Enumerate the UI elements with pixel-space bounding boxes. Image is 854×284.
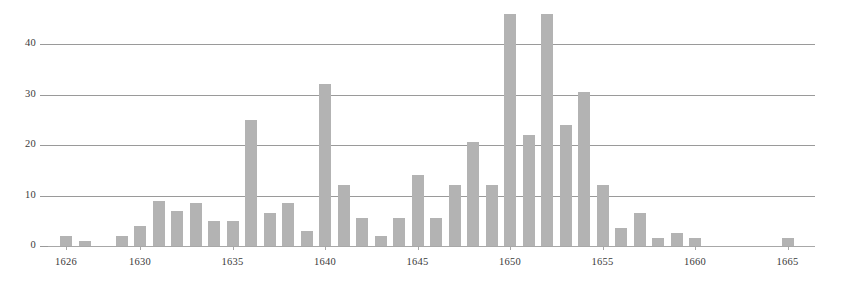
x-tick-mark-1665 [788, 247, 789, 250]
bar [171, 211, 183, 246]
bar [523, 135, 535, 246]
x-tick-mark-1626 [66, 247, 67, 250]
gridline-30 [48, 95, 815, 96]
y-axis-tick-label: 30 [2, 88, 36, 99]
x-axis-tick-label: 1635 [211, 256, 255, 267]
bar [393, 218, 405, 246]
bar [504, 14, 516, 246]
bar [541, 14, 553, 246]
y-tick-mark-20 [40, 145, 48, 146]
bar [671, 233, 683, 246]
x-axis-baseline [48, 246, 815, 247]
bar [412, 175, 424, 246]
bar [597, 185, 609, 246]
bar [578, 92, 590, 246]
x-axis-tick-label: 1640 [303, 256, 347, 267]
y-axis-tick-label: 20 [2, 138, 36, 149]
x-axis-tick-label: 1630 [118, 256, 162, 267]
bar [208, 221, 220, 246]
y-tick-mark-10 [40, 196, 48, 197]
x-tick-mark-1635 [233, 247, 234, 250]
x-axis-tick-label: 1626 [44, 256, 88, 267]
bar [375, 236, 387, 246]
bar [782, 238, 794, 246]
x-tick-mark-1640 [325, 247, 326, 250]
bar [615, 228, 627, 246]
y-tick-mark-30 [40, 95, 48, 96]
bar [319, 84, 331, 246]
x-axis-tick-label: 1655 [581, 256, 625, 267]
x-axis-tick-label: 1645 [396, 256, 440, 267]
x-tick-mark-1645 [418, 247, 419, 250]
bar [227, 221, 239, 246]
bar-chart-plot-area: 0102030401626163016351640164516501655166… [0, 0, 854, 284]
x-axis-tick-label: 1665 [766, 256, 810, 267]
gridline-10 [48, 196, 815, 197]
bar [689, 238, 701, 246]
bar [430, 218, 442, 246]
x-axis-tick-label: 1660 [673, 256, 717, 267]
bar [467, 142, 479, 246]
bar [60, 236, 72, 246]
bar [486, 185, 498, 246]
bar [338, 185, 350, 246]
chart-page: 0102030401626163016351640164516501655166… [0, 0, 854, 284]
bar [116, 236, 128, 246]
bar [245, 120, 257, 246]
bar [282, 203, 294, 246]
bar [79, 241, 91, 246]
y-tick-mark-40 [40, 44, 48, 45]
y-axis-tick-label: 0 [2, 239, 36, 250]
y-axis-tick-label: 10 [2, 189, 36, 200]
x-tick-mark-1650 [510, 247, 511, 250]
bar [634, 213, 646, 246]
x-tick-mark-1660 [695, 247, 696, 250]
bar [264, 213, 276, 246]
bar [560, 125, 572, 246]
bar [190, 203, 202, 246]
bar [134, 226, 146, 246]
x-tick-mark-1630 [140, 247, 141, 250]
y-axis-tick-label: 40 [2, 37, 36, 48]
x-tick-mark-1655 [603, 247, 604, 250]
bar [652, 238, 664, 246]
gridline-40 [48, 44, 815, 45]
y-tick-mark-0 [40, 246, 48, 247]
bar [153, 201, 165, 246]
bar [356, 218, 368, 246]
bar [301, 231, 313, 246]
gridline-20 [48, 145, 815, 146]
x-axis-tick-label: 1650 [488, 256, 532, 267]
bar [449, 185, 461, 246]
